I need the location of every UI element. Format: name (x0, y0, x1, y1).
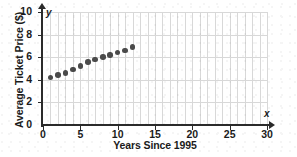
x-tick-mark (118, 126, 119, 130)
gridline-vertical (237, 12, 238, 125)
gridline-vertical (88, 12, 89, 125)
x-tick-mark (80, 126, 81, 130)
gridline-vertical (222, 12, 223, 125)
data-point (85, 59, 91, 65)
gridline-vertical (103, 12, 104, 125)
y-axis-line (41, 8, 43, 127)
y-tick-label: 2 (2, 95, 32, 107)
gridline-vertical (170, 12, 171, 125)
gridline-vertical (110, 12, 111, 125)
gridline-vertical (118, 12, 119, 125)
gridline-vertical (260, 12, 261, 125)
gridline-vertical (58, 12, 59, 125)
y-tick-mark (38, 35, 43, 36)
x-tick-mark (43, 126, 44, 130)
gridline-vertical (215, 12, 216, 125)
x-tick-mark (192, 126, 193, 130)
gridline-horizontal (43, 102, 267, 103)
gridline-vertical (192, 12, 193, 125)
data-point (78, 63, 84, 69)
gridline-horizontal (43, 12, 267, 13)
x-tick-mark (230, 126, 231, 130)
data-point (100, 54, 106, 60)
gridline-vertical (140, 12, 141, 125)
y-tick-label: 0 (2, 118, 32, 130)
y-tick-label: 6 (2, 50, 32, 62)
data-point (63, 70, 69, 76)
scatter-chart: Average Ticket Price ($) Years Since 199… (0, 0, 297, 157)
y-tick-label: 8 (2, 28, 32, 40)
gridline-horizontal (43, 35, 267, 36)
gridline-vertical (125, 12, 126, 125)
x-tick-mark (155, 126, 156, 130)
gridline-horizontal (43, 57, 267, 58)
y-tick-label: 10 (2, 5, 32, 17)
gridline-vertical (245, 12, 246, 125)
x-tick-mark (267, 126, 268, 130)
gridline-vertical (162, 12, 163, 125)
y-tick-label: 4 (2, 73, 32, 85)
gridline-vertical (155, 12, 156, 125)
x-axis-variable-label: x (264, 108, 270, 119)
plot-area (43, 12, 267, 125)
y-tick-mark (38, 102, 43, 103)
y-tick-mark (38, 12, 43, 13)
data-point (70, 67, 76, 73)
gridline-horizontal (43, 80, 267, 81)
gridline-vertical (148, 12, 149, 125)
gridline-vertical (207, 12, 208, 125)
x-axis-title: Years Since 1995 (43, 139, 267, 151)
gridline-vertical (177, 12, 178, 125)
y-axis-variable-label: y (46, 7, 52, 18)
y-tick-mark (38, 80, 43, 81)
gridline-vertical (95, 12, 96, 125)
gridline-vertical (50, 12, 51, 125)
data-point (122, 48, 128, 54)
gridline-vertical (252, 12, 253, 125)
x-axis-line (43, 124, 271, 126)
gridline-vertical (200, 12, 201, 125)
gridline-vertical (185, 12, 186, 125)
gridline-vertical (133, 12, 134, 125)
data-point (55, 72, 61, 78)
y-tick-mark (38, 57, 43, 58)
data-point (107, 52, 113, 58)
gridline-vertical (65, 12, 66, 125)
y-axis-title: Average Ticket Price ($) (13, 8, 25, 132)
y-axis-arrow-icon (38, 3, 46, 9)
gridline-vertical (230, 12, 231, 125)
